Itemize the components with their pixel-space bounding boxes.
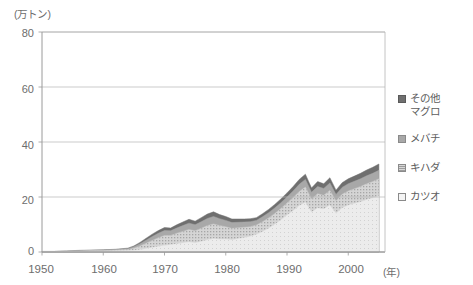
chart-legend: その他 マグロ メバチ キハダ カツオ (398, 92, 473, 215)
legend-label-katsuo: カツオ (410, 190, 440, 203)
legend-item-sonota-maguro[interactable]: その他 マグロ (398, 92, 473, 118)
legend-swatch-kihada (398, 164, 406, 172)
legend-swatch-katsuo (398, 193, 406, 201)
chart-container: (万トン) 80 60 40 20 0 1950 1960 1970 1980 … (0, 0, 473, 285)
legend-item-mebachi[interactable]: メバチ (398, 132, 473, 145)
legend-label-mebachi: メバチ (410, 132, 440, 145)
legend-label-kihada: キハダ (410, 161, 440, 174)
legend-item-katsuo[interactable]: カツオ (398, 190, 473, 203)
legend-swatch-mebachi (398, 135, 406, 143)
legend-swatch-sonota-maguro (398, 95, 406, 103)
legend-item-kihada[interactable]: キハダ (398, 161, 473, 174)
legend-label-sonota-maguro: その他 マグロ (410, 92, 440, 118)
